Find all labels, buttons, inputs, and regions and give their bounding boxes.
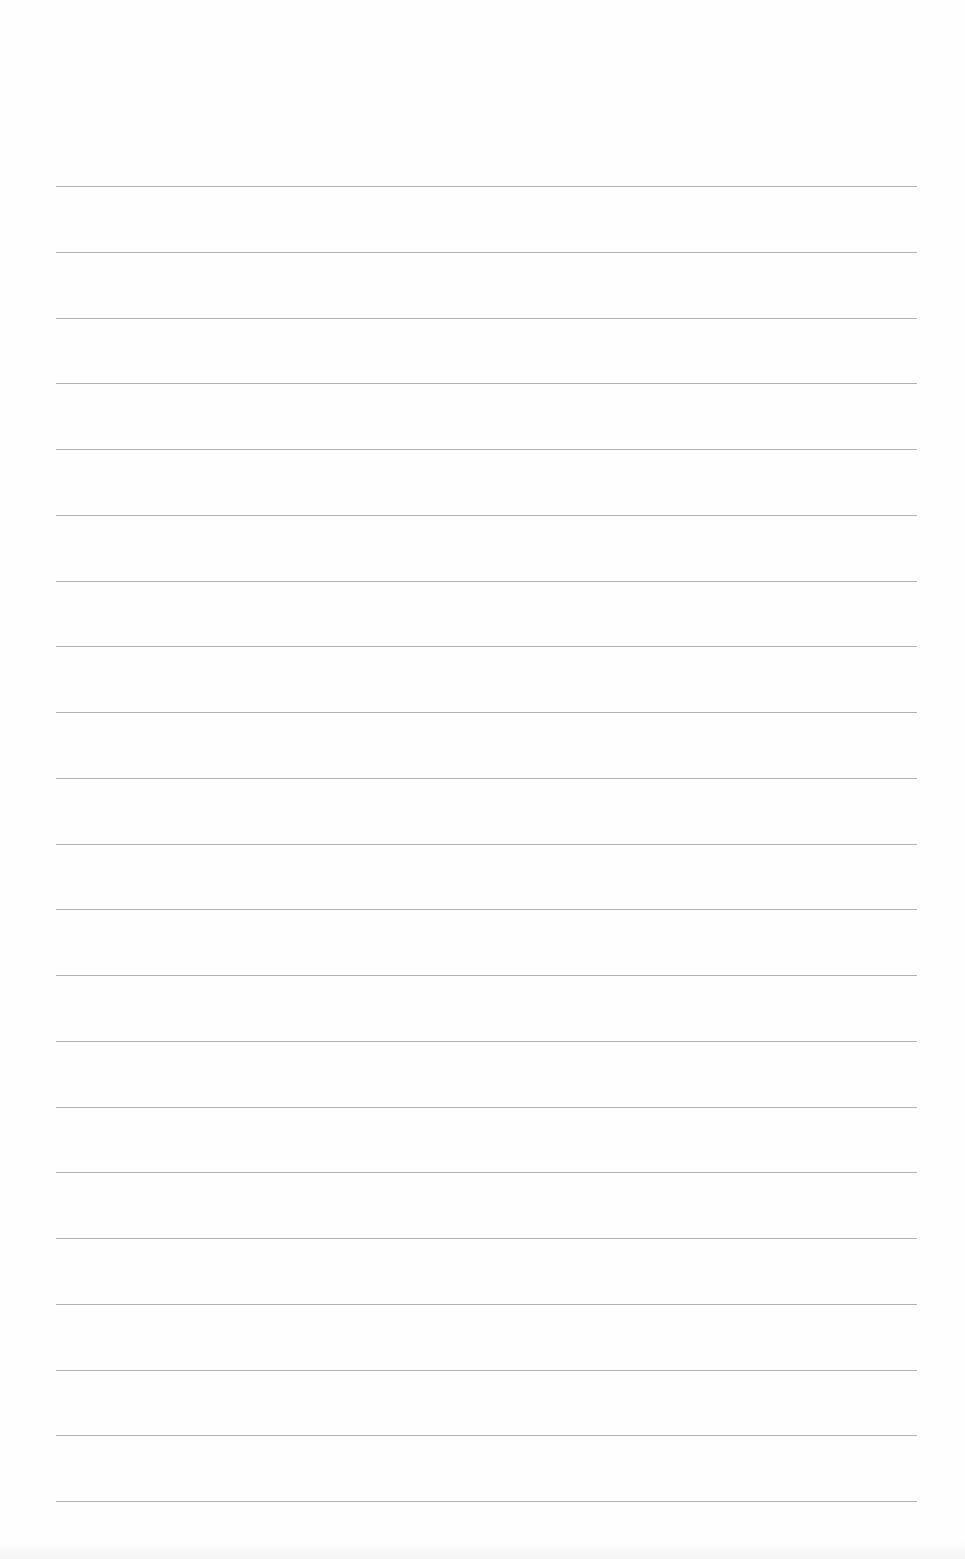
- ruled-line: [56, 975, 917, 976]
- ruled-line: [56, 1304, 917, 1305]
- ruled-line: [56, 1172, 917, 1173]
- ruled-line: [56, 1238, 917, 1239]
- ruled-line: [56, 1041, 917, 1042]
- ruled-line: [56, 449, 917, 450]
- ruled-line: [56, 646, 917, 647]
- ruled-line: [56, 252, 917, 253]
- ruled-line: [56, 1435, 917, 1436]
- ruled-line: [56, 1501, 917, 1502]
- page-bottom-edge: [0, 1540, 965, 1559]
- ruled-line: [56, 712, 917, 713]
- ruled-line: [56, 186, 917, 187]
- ruled-line: [56, 581, 917, 582]
- ruled-line: [56, 515, 917, 516]
- ruled-line: [56, 778, 917, 779]
- ruled-line: [56, 318, 917, 319]
- ruled-line: [56, 909, 917, 910]
- ruled-line: [56, 1370, 917, 1371]
- ruled-line: [56, 383, 917, 384]
- lined-paper-page: [0, 0, 965, 1559]
- ruled-line: [56, 844, 917, 845]
- ruled-line: [56, 1107, 917, 1108]
